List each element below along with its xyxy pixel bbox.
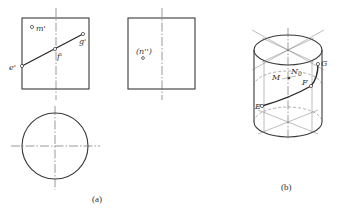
label-m-prime: m' [36,24,46,33]
point-e-prime [20,64,23,67]
point-E [260,104,263,107]
point-m-prime [30,25,33,28]
label-f-prime: f' [56,52,62,61]
label-E: E [254,102,261,111]
point-g-prime [81,32,84,35]
projection-diagram: m' e' f' g' (n'') (a) [0,0,355,212]
diagram-canvas: m' e' f' g' (n'') (a) [0,0,355,212]
isometric-cylinder: G F E M N0 [252,28,328,140]
label-N0: N0 [290,67,302,77]
point-n-double-prime [142,57,145,60]
label-e-prime: e' [9,63,16,72]
label-M: M [271,73,281,82]
side-view: (n'') [128,8,195,100]
label-G: G [321,59,328,68]
point-f-prime [53,47,56,50]
caption-a: (a) [92,194,102,204]
caption-b: (b) [281,182,292,192]
top-view [11,106,100,190]
point-G [316,62,319,65]
front-view-curve-line [22,34,83,66]
label-F: F [301,78,308,87]
label-n-double-prime: (n'') [136,47,152,56]
front-view: m' e' f' g' [9,8,89,100]
label-g-prime: g' [79,37,86,46]
point-F [309,84,312,87]
label-N0-subscript: 0 [298,70,302,77]
